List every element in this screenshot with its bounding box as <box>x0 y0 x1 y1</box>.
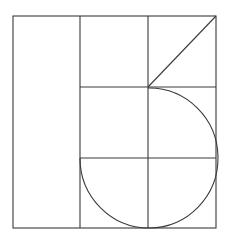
diagonal-line <box>148 16 216 87</box>
geometric-diagram <box>0 0 229 243</box>
